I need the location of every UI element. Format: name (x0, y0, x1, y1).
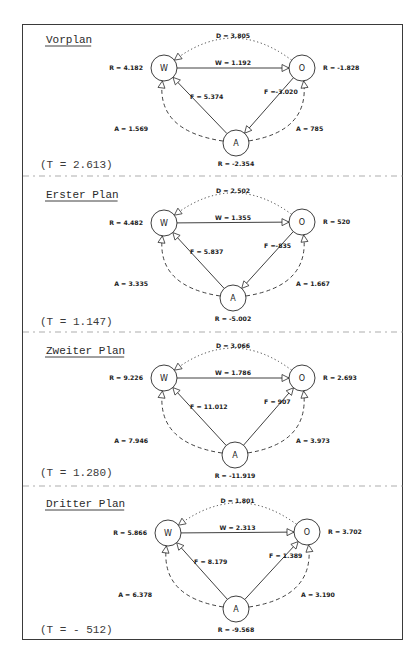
t-value-label: (T = 1.147) (40, 316, 113, 328)
label-R-A: R = -9.568 (218, 626, 254, 633)
t-value-label: (T = 1.280) (40, 467, 113, 479)
edge-D (174, 193, 291, 215)
node-label-W: W (160, 374, 168, 383)
panel-title: Vorplan (46, 34, 92, 46)
label-F-left: F = 11.012 (190, 403, 228, 410)
label-R-W: R = 4.182 (109, 64, 143, 71)
edge-F-right (244, 388, 294, 445)
label-A-left: A = 3.335 (114, 280, 148, 287)
edge-A-right-arrowhead (301, 235, 308, 242)
label-A-right: A = 785 (296, 125, 323, 132)
label-F-right: F = 907 (264, 398, 291, 405)
node-label-A: A (233, 139, 239, 148)
edge-A-left-arrowhead (158, 81, 165, 88)
flow-diagrams: Vorplan(T = 2.613)WOAD = 3.805W = 1.192F… (0, 0, 418, 660)
edge-F-left (173, 233, 224, 289)
label-W: W = 1.786 (215, 369, 251, 376)
edge-A-left (162, 391, 222, 453)
edge-D-arrowhead (174, 53, 182, 60)
edge-A-right-arrowhead (306, 545, 313, 552)
edge-W-arrowhead (287, 529, 294, 536)
label-R-W: R = 5.866 (113, 529, 147, 536)
label-F-right: F =-835 (264, 242, 291, 249)
label-F-left: F = 5.374 (190, 93, 224, 100)
label-W: W = 1.192 (215, 59, 251, 66)
edge-D-arrowhead (178, 518, 186, 525)
edge-A-left-arrowhead (158, 391, 165, 398)
label-D: D = 3.066 (216, 342, 250, 349)
label-F-left: F = 5.837 (190, 248, 223, 255)
label-F-left: F = 8.179 (194, 558, 227, 565)
edge-F-left (173, 77, 227, 133)
panel-4: Dritter Plan(T = - 512)WOAD = 1.801W = 2… (40, 497, 362, 636)
node-label-A: A (233, 605, 239, 614)
edge-A-left-arrowhead (162, 546, 169, 553)
t-value-label: (T = - 512) (40, 624, 113, 636)
label-D: D = 2.502 (216, 187, 250, 194)
t-value-label: (T = 2.613) (40, 159, 113, 171)
edge-F-right (242, 232, 294, 289)
label-R-A: R = -11.919 (215, 472, 256, 479)
edge-D-arrowhead (174, 363, 182, 370)
label-A-right: A = 3.973 (296, 437, 330, 444)
edge-W-arrowhead (282, 219, 289, 226)
panel-title: Dritter Plan (46, 498, 125, 510)
edge-A-left (162, 81, 223, 141)
label-A-left: A = 6.378 (118, 591, 152, 598)
edge-W-arrowhead (282, 65, 289, 72)
edge-W-arrowhead (282, 375, 289, 382)
edge-D-arrowhead (174, 208, 182, 215)
edge-F-left (173, 388, 226, 446)
label-A-right: A = 3.190 (301, 591, 336, 598)
node-label-O: O (299, 64, 305, 73)
panel-3: Zweiter Plan(T = 1.280)WOAD = 3.066W = 1… (23, 342, 403, 486)
label-R-O: R = 3.702 (328, 528, 362, 535)
label-R-W: R = 9.226 (109, 374, 143, 381)
label-A-left: A = 7.946 (114, 437, 148, 444)
panel-title: Erster Plan (46, 189, 119, 201)
label-A-left: A = 1.569 (114, 125, 148, 132)
label-R-O: R = -1.828 (323, 64, 359, 71)
panel-2: Erster Plan(T = 1.147)WOAD = 2.502W = 1.… (23, 187, 403, 332)
label-R-O: R = 2.693 (323, 374, 357, 381)
label-R-A: R = -2.354 (218, 160, 255, 167)
label-R-A: R = -5.002 (215, 315, 251, 322)
label-R-W: R = 4.482 (109, 219, 143, 226)
node-label-W: W (160, 64, 168, 73)
edge-W (181, 532, 294, 533)
label-R-O: R = 520 (323, 218, 351, 225)
edge-F-right (245, 78, 294, 133)
node-label-O: O (299, 218, 305, 227)
label-W: W = 1.355 (215, 214, 251, 221)
edge-F-left (177, 543, 228, 600)
edge-A-right-arrowhead (301, 391, 308, 398)
node-label-O: O (299, 374, 305, 383)
node-label-W: W (164, 529, 172, 538)
label-D: D = 1.801 (220, 497, 254, 504)
edge-A-right-arrowhead (301, 81, 308, 88)
edge-D (174, 348, 291, 370)
node-label-A: A (230, 294, 236, 303)
edge-A-left (162, 236, 220, 296)
edge-A-left (166, 546, 223, 607)
node-label-W: W (160, 219, 168, 228)
label-F-right: F = 1.389 (269, 552, 302, 559)
label-W: W = 2.313 (220, 524, 256, 531)
panel-title: Zweiter Plan (46, 345, 125, 357)
edge-D (174, 38, 291, 60)
panel-1: Vorplan(T = 2.613)WOAD = 3.805W = 1.192F… (23, 32, 403, 176)
label-D: D = 3.805 (216, 32, 250, 39)
edge-A-left-arrowhead (158, 236, 165, 243)
node-label-A: A (232, 451, 238, 460)
label-A-right: A = 1.667 (296, 280, 330, 287)
edge-D (178, 503, 296, 525)
label-F-right: F =-3.020 (264, 88, 298, 95)
edge-F-right (245, 542, 298, 600)
edge-W (177, 222, 289, 223)
node-label-O: O (304, 528, 310, 537)
